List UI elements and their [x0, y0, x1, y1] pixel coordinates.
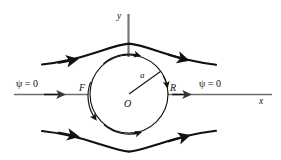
streamline-figure: ψ = 0 ψ = 0 y x F R O a: [0, 0, 281, 160]
psi-right-label: ψ = 0: [199, 79, 221, 89]
circle-arrow-right: [164, 76, 168, 87]
radius-label: a: [140, 71, 145, 80]
upper-streamline-arrow-right: [168, 55, 186, 60]
front-stagnation-point-label: F: [79, 83, 85, 93]
lower-streamline-arrow-right: [168, 136, 187, 141]
y-axis-label: y: [117, 12, 121, 22]
psi-left-label: ψ = 0: [16, 79, 38, 89]
circle-arrow-left: [88, 82, 96, 119]
x-axis-label: x: [259, 97, 263, 107]
figure-canvas: [0, 0, 281, 160]
rear-stagnation-point-label: R: [170, 83, 176, 93]
center-point-label: O: [124, 99, 131, 109]
